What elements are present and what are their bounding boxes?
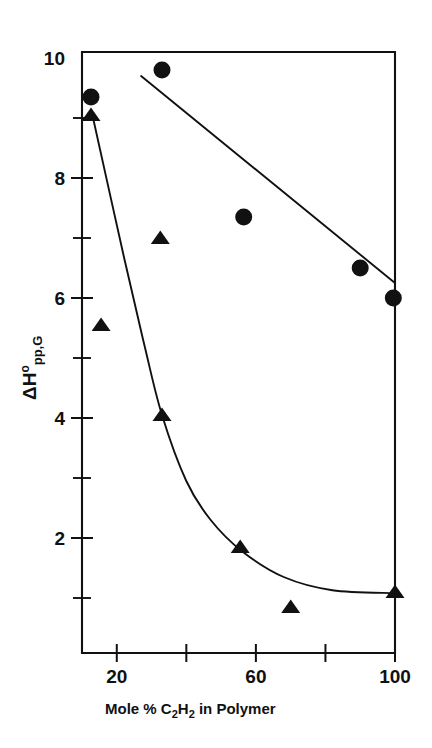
fit-curve-circles	[141, 76, 395, 283]
data-point-triangle-3	[153, 408, 172, 421]
figure-container: 246810 2060100 ΔHopp,G Mole % C2H2 in Po…	[0, 0, 432, 748]
y-tick-label-4: 4	[54, 408, 65, 429]
svg-text:Mole % C2H2 in Polymer: Mole % C2H2 in Polymer	[105, 700, 276, 720]
y-axis-title-delta: Δ	[19, 386, 40, 400]
data-point-circle-1	[154, 62, 171, 79]
x-tick-label-60: 60	[245, 666, 266, 687]
data-point-triangle-5	[281, 600, 300, 613]
data-point-triangle-1	[92, 318, 111, 331]
y-tick-label-2: 2	[54, 528, 65, 549]
x-axis-title-h: H	[178, 700, 189, 717]
fit-curves	[92, 76, 395, 593]
x-tick-label-20: 20	[106, 666, 127, 687]
plot-frame	[82, 52, 395, 653]
data-point-triangle-4	[231, 540, 250, 553]
y-axis-title-degree: o	[18, 365, 32, 372]
data-point-triangle-6	[386, 585, 405, 598]
y-axis-tick-labels: 246810	[44, 48, 66, 549]
svg-text:ΔHopp,G: ΔHopp,G	[18, 336, 45, 400]
y-axis-title-h: H	[19, 373, 40, 387]
x-axis-title: Mole % C2H2 in Polymer	[105, 700, 276, 720]
y-tick-label-10: 10	[44, 48, 65, 69]
fit-curve-triangles	[92, 115, 395, 593]
data-point-circle-3	[352, 260, 369, 277]
y-tick-label-6: 6	[54, 288, 65, 309]
y-tick-label-8: 8	[54, 168, 65, 189]
y-axis-title-subscript: pp,G	[30, 336, 45, 366]
x-axis-title-lead: Mole % C	[105, 700, 172, 717]
y-axis-title: ΔHopp,G	[18, 336, 45, 400]
data-point-triangle-0	[82, 108, 101, 121]
x-tick-label-100: 100	[379, 666, 411, 687]
data-point-circle-4	[385, 290, 402, 307]
scatter-plot: 246810 2060100 ΔHopp,G Mole % C2H2 in Po…	[0, 0, 432, 748]
x-axis-title-tail: in Polymer	[195, 700, 276, 717]
data-point-circle-0	[83, 89, 100, 106]
data-point-circle-2	[235, 209, 252, 226]
data-point-triangle-2	[151, 231, 170, 244]
x-axis-tick-labels: 2060100	[106, 666, 411, 687]
data-markers	[82, 62, 405, 613]
